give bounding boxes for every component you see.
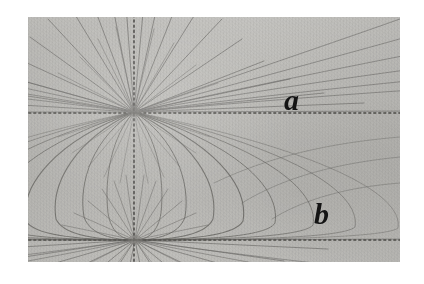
- field-label-b: b: [314, 199, 329, 229]
- upper-pole-core: [127, 107, 141, 117]
- field-line-diagram: [28, 17, 400, 262]
- lower-pole-core: [128, 235, 142, 245]
- photograph-plate: a b: [28, 17, 400, 262]
- open-field-lines: [28, 17, 400, 262]
- field-label-a: a: [284, 85, 299, 115]
- dipole-closed-loops: [28, 112, 398, 240]
- figure-root: a b: [0, 0, 424, 284]
